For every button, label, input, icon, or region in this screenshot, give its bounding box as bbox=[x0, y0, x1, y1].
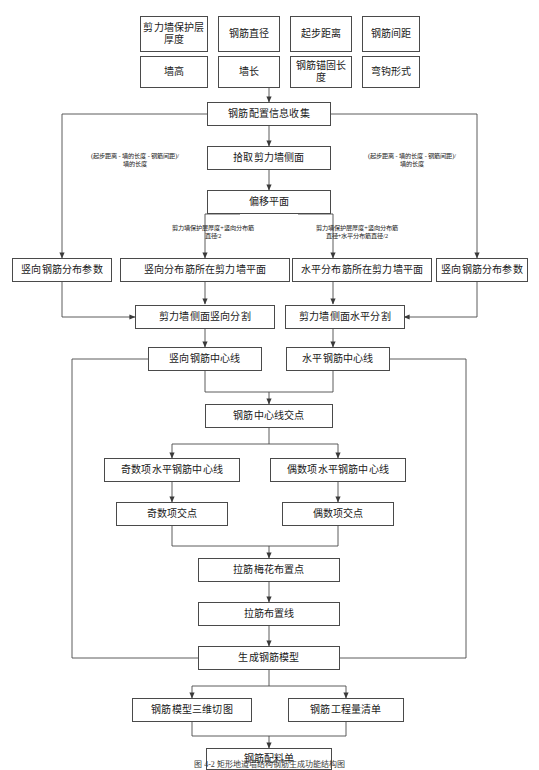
node-vertical-rebar-params-right: 竖向钢筋分布参数 bbox=[436, 258, 528, 282]
node-vertical-rebar-wall-plane: 竖向分布筋所在剪力墙平面 bbox=[120, 258, 290, 282]
input-box-cover-thickness: 剪力墙保护层厚度 bbox=[140, 16, 208, 52]
node-wall-side-vertical-split: 剪力墙侧面竖向分割 bbox=[135, 305, 275, 329]
node-rebar-model-3d-section: 钢筋模型三维切图 bbox=[132, 698, 252, 722]
input-box-anchorage-length: 钢筋锚固长度 bbox=[290, 56, 352, 88]
node-wall-side-horizontal-split: 剪力墙侧面水平分割 bbox=[285, 305, 405, 329]
node-horizontal-rebar-wall-plane: 水平分布筋所在剪力墙平面 bbox=[292, 258, 432, 282]
input-box-start-distance: 起步距离 bbox=[290, 16, 352, 52]
annotation-left-spacing-formula: (起步距离 - 墙的长度 - 钢筋间距)/ 墙的长度 bbox=[74, 152, 196, 169]
node-rebar-quantity-list: 钢筋工程量清单 bbox=[288, 698, 404, 722]
node-pick-shear-wall-side: 拾取剪力墙侧面 bbox=[207, 146, 331, 170]
annotation-vertical-offset-formula: 剪力墙保护层厚度+竖向分布筋 直径/2 bbox=[148, 224, 278, 241]
node-tie-rebar-layout-lines: 拉筋布置线 bbox=[198, 602, 340, 626]
input-box-rebar-spacing: 钢筋间距 bbox=[362, 16, 420, 52]
node-tie-rebar-plum-points: 拉筋梅花布置点 bbox=[198, 558, 340, 582]
node-even-intersection: 偶数项交点 bbox=[282, 502, 394, 526]
input-box-wall-height: 墙高 bbox=[140, 56, 208, 88]
node-odd-horizontal-centerline: 奇数项水平钢筋中心线 bbox=[104, 458, 240, 482]
node-horizontal-rebar-centerline: 水平钢筋中心线 bbox=[286, 347, 390, 371]
node-vertical-rebar-params-left: 竖向钢筋分布参数 bbox=[12, 258, 112, 282]
annotation-horizontal-offset-formula: 剪力墙保护层厚度+竖向分布筋 直径+水平分布筋直径/2 bbox=[282, 224, 432, 241]
node-rebar-centerline-intersection: 钢筋中心线交点 bbox=[205, 404, 333, 428]
flowchart-figure: 剪力墙保护层厚度 钢筋直径 起步距离 钢筋间距 墙高 墙长 钢筋锚固长度 弯钩形… bbox=[0, 0, 539, 770]
figure-caption: 图 4-2 矩形地道墙结构钢筋生成功能结构图 bbox=[0, 758, 539, 769]
node-even-horizontal-centerline: 偶数项水平钢筋中心线 bbox=[270, 458, 406, 482]
node-odd-intersection: 奇数项交点 bbox=[116, 502, 228, 526]
node-vertical-rebar-centerline: 竖向钢筋中心线 bbox=[148, 347, 262, 371]
node-offset-plane: 偏移平面 bbox=[207, 190, 331, 214]
input-box-rebar-diameter: 钢筋直径 bbox=[218, 16, 280, 52]
node-generate-rebar-model: 生成钢筋模型 bbox=[198, 646, 340, 670]
node-collect-rebar-config: 钢筋配置信息收集 bbox=[207, 102, 331, 126]
input-box-wall-length: 墙长 bbox=[218, 56, 280, 88]
annotation-right-spacing-formula: (起步距离 - 墙的长度 - 钢筋间距)/ 墙的长度 bbox=[348, 152, 476, 169]
input-box-hook-type: 弯钩形式 bbox=[362, 56, 420, 88]
